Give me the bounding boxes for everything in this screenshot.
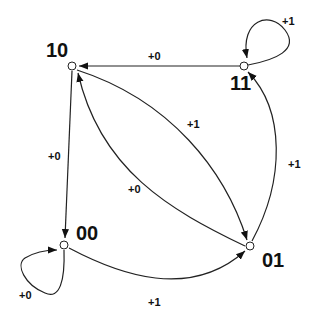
edge-11-self-loop: +1	[246, 15, 295, 65]
edge-00-self-loop: +0	[19, 250, 64, 301]
edge-label: +0	[48, 150, 61, 162]
edge-label: +1	[148, 296, 161, 308]
edge-label: +1	[288, 158, 301, 170]
edge-10-to-00: +0	[48, 71, 72, 238]
edge-10-to-01: +1	[77, 70, 247, 240]
edge-label: +0	[148, 50, 161, 62]
node-11: 11	[230, 62, 251, 94]
node-label: 10	[46, 39, 68, 61]
edge-label: +0	[19, 289, 32, 301]
node-01: 01	[246, 242, 284, 271]
state-diagram: +0 +1 +1 +0 +0 +0 +1 +1 10 11	[0, 0, 317, 319]
edge-label: +1	[282, 15, 295, 27]
edge-01-to-10: +0	[78, 73, 245, 246]
node-label: 11	[230, 72, 251, 94]
edge-01-to-11: +1	[248, 72, 301, 241]
edge-label: +0	[128, 183, 141, 195]
diagram-svg: +0 +1 +1 +0 +0 +0 +1 +1 10 11	[0, 0, 317, 319]
node-10: 10	[46, 39, 76, 70]
node-label: 00	[76, 222, 98, 244]
edge-11-to-10: +0	[79, 50, 240, 66]
edge-label: +1	[187, 118, 200, 130]
edge-00-to-01: +1	[69, 248, 245, 308]
node-label: 01	[262, 249, 284, 271]
